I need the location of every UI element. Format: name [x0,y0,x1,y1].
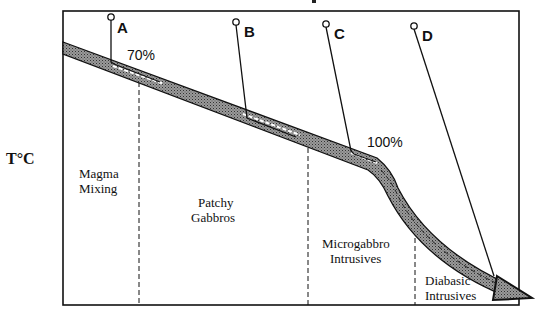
zone-dividers [139,82,415,305]
zone-1-line-1: Magma [79,166,119,181]
percent-label-100: 100% [367,134,403,150]
point-c-marker-icon [323,21,329,27]
zone-4-line-2: Intrusives [425,288,476,303]
cooling-band [63,42,532,300]
clipped-title-fragment [312,0,316,3]
zone-2-line-2: Gabbros [191,210,235,225]
zone-3-line-2: Intrusives [330,251,381,266]
zone-2-line-1: Patchy [198,195,234,210]
point-label-d: D [422,27,433,44]
cooling-path-diagram: A B C D 70% 100% T°C Magma Mixing Patchy… [0,0,542,317]
point-a-marker-icon [108,14,114,20]
percent-label-70: 70% [127,47,155,63]
zone-3-line-1: Microgabbro [322,236,390,251]
y-axis-label: T°C [6,150,35,167]
point-label-c: C [334,25,345,42]
point-label-b: B [244,23,255,40]
zone-1-line-2: Mixing [79,181,118,196]
point-b-marker-icon [233,19,239,25]
point-label-a: A [117,19,128,36]
point-d-marker-icon [411,23,417,29]
zone-4-line-1: Diabasic [425,273,471,288]
arrowhead-icon [493,276,532,300]
